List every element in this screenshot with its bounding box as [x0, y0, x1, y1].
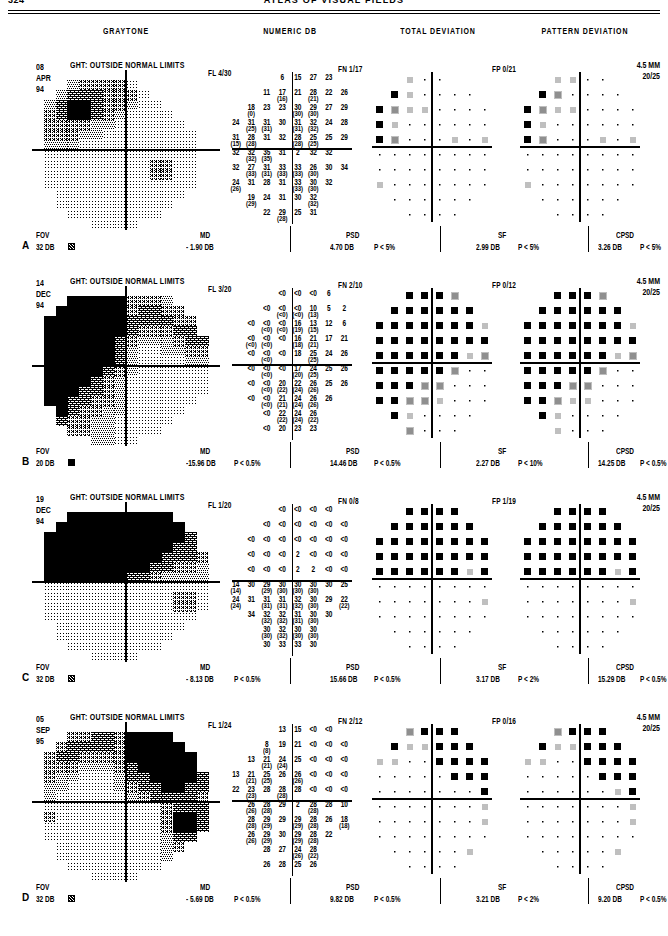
- total-deviation-plot: [372, 504, 492, 654]
- sf-significance: P < 5%: [518, 242, 539, 251]
- numeric-db-value: 33: [275, 639, 291, 648]
- numeric-db-value: <0: [306, 288, 322, 297]
- numeric-db-value: <0: [321, 564, 337, 573]
- numeric-db-value: 26: [337, 378, 353, 387]
- psd-value: 9.82 DB: [330, 894, 354, 903]
- psd-label: PSD: [346, 662, 359, 671]
- numeric-db-value: 29: [337, 132, 353, 141]
- visual-acuity: 20/25: [637, 501, 660, 515]
- numeric-db-value: <0(<0): [244, 333, 260, 349]
- numeric-db-value: 22: [228, 784, 244, 793]
- cpsd-value: 14.25 DB: [598, 458, 625, 467]
- numeric-db-value: <0(<0): [275, 318, 291, 334]
- fov-symbol: [68, 459, 75, 466]
- numeric-db-value: 30: [321, 162, 337, 171]
- psd-significance: P < 5%: [374, 242, 395, 251]
- numeric-db-value: <0: [321, 534, 337, 543]
- stats-separator: [440, 658, 441, 684]
- numeric-db-value: 26(26): [306, 378, 322, 394]
- visual-acuity: 20/25: [637, 285, 660, 299]
- sf-label: SF: [498, 230, 506, 239]
- ght-status: GHT: OUTSIDE NORMAL LIMITS: [70, 712, 185, 721]
- numeric-db-value: 26: [337, 87, 353, 96]
- numeric-db-value: <0: [244, 393, 260, 402]
- false-positives: FP 0/21: [492, 64, 516, 73]
- numeric-db-value: <0: [337, 769, 353, 778]
- numeric-db-value: 28(28): [275, 784, 291, 800]
- numeric-horizontal-axis: [232, 364, 352, 366]
- numeric-db-value: <0: [321, 784, 337, 793]
- psd-label: PSD: [346, 446, 359, 455]
- numeric-db-value: <0: [275, 288, 291, 297]
- numeric-db-value: 31(15): [228, 132, 244, 148]
- md-label: MD: [200, 446, 210, 455]
- numeric-db-value: 26(26): [244, 829, 260, 845]
- numeric-db-value: 22(22): [337, 594, 353, 610]
- cpsd-label: CPSD: [616, 882, 634, 891]
- numeric-db-value: <0: [275, 504, 291, 513]
- numeric-db-value: 30: [306, 639, 322, 648]
- numeric-db-value: <0(<0): [259, 333, 275, 349]
- column-header-graytone: GRAYTONE: [66, 26, 186, 35]
- numeric-db-value: 24(24): [228, 594, 244, 610]
- numeric-db-value: 23(23): [244, 784, 260, 800]
- fov-label: FOV: [36, 230, 49, 239]
- visual-field-panel-b: 14DEC94GHT: OUTSIDE NORMAL LIMITSFL 3/20…: [0, 260, 668, 476]
- psd-label: PSD: [346, 882, 359, 891]
- cpsd-significance: P < 0.5%: [640, 674, 666, 683]
- numeric-db-value: <0: [306, 739, 322, 748]
- sf-value: 2.27 DB: [476, 458, 500, 467]
- numeric-db-value: 30: [275, 117, 291, 126]
- numeric-db-value: 31(31): [259, 117, 275, 133]
- ght-status: GHT: OUTSIDE NORMAL LIMITS: [70, 492, 185, 501]
- numeric-db-value: 32(32): [275, 609, 291, 625]
- numeric-db-value: 24(26): [228, 177, 244, 193]
- numeric-db-value: <0: [337, 519, 353, 528]
- numeric-db-value: 32(32): [306, 117, 322, 133]
- numeric-db-value: 23: [259, 102, 275, 111]
- pupil-and-acuity: 4.5 MM20/25: [637, 58, 660, 80]
- numeric-db-value: <0: [306, 504, 322, 513]
- numeric-db-value: <0(<0): [259, 318, 275, 334]
- numeric-db-value: <0: [306, 784, 322, 793]
- numeric-db-value: 13(15): [306, 318, 322, 334]
- sf-label: SF: [498, 446, 506, 455]
- numeric-db-value: <0: [244, 549, 260, 558]
- stats-separator: [588, 226, 589, 252]
- numeric-db-value: 13: [228, 769, 244, 778]
- sf-significance: P < 2%: [518, 674, 539, 683]
- stats-separator: [440, 226, 441, 252]
- psd-value: 14.46 DB: [330, 458, 357, 467]
- numeric-db-value: <0: [275, 549, 291, 558]
- numeric-db-value: <0: [337, 754, 353, 763]
- numeric-db-value: 32: [275, 132, 291, 141]
- numeric-db-value: <0: [337, 534, 353, 543]
- numeric-db-value: 24: [259, 192, 275, 201]
- stats-separator: [290, 442, 291, 468]
- numeric-db-value: 28(21): [306, 87, 322, 103]
- numeric-db-value: 30(30): [259, 624, 275, 640]
- sf-label: SF: [498, 662, 506, 671]
- sf-significance: P < 10%: [518, 458, 543, 467]
- numeric-db-value: 24: [321, 348, 337, 357]
- numeric-db-value: <0: [275, 564, 291, 573]
- numeric-db-value: 5: [321, 303, 337, 312]
- graytone-plot: [32, 722, 220, 882]
- stats-separator: [588, 878, 589, 904]
- numeric-db-value: 13: [244, 754, 260, 763]
- stats-separator: [588, 658, 589, 684]
- numeric-db-value: 21(21): [259, 754, 275, 770]
- numeric-db-value: 33(33): [275, 162, 291, 178]
- md-significance: P < 0.5%: [234, 458, 260, 467]
- numeric-db-value: 23: [275, 102, 291, 111]
- numeric-db-value: <0: [337, 784, 353, 793]
- numeric-db-value: <0: [275, 519, 291, 528]
- numeric-db-value: 18(18): [337, 814, 353, 830]
- numeric-db-value: 30(30): [306, 177, 322, 193]
- numeric-db-value: 20: [275, 423, 291, 432]
- cpsd-significance: P < 0.5%: [640, 458, 666, 467]
- numeric-db-value: <0: [306, 534, 322, 543]
- numeric-db-value: 21(21): [306, 333, 322, 349]
- numeric-db-value: 17(16): [275, 87, 291, 103]
- psd-label: PSD: [346, 230, 359, 239]
